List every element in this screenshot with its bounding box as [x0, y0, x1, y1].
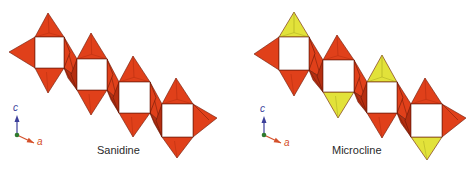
sanidine-top-tetrahedron [162, 78, 193, 104]
microcline-bottom-tetrahedron [323, 92, 354, 118]
sanidine-axis-a-label: a [37, 136, 43, 147]
sanidine-right-tetrahedron [193, 104, 217, 137]
axis-origin-icon [15, 133, 20, 138]
microcline-top-tetrahedron [411, 78, 442, 104]
sanidine-channel-square [162, 104, 193, 137]
microcline-right-tetrahedron [442, 104, 466, 137]
sanidine-bottom-tetrahedron [35, 68, 64, 93]
microcline-bottom-tetrahedron [279, 70, 309, 96]
feldspar-structure-figure: Sanidine Microcline c a c a [0, 0, 468, 172]
sanidine-bottom-tetrahedron [162, 137, 193, 158]
microcline-bottom-tetrahedron [367, 113, 397, 138]
axis-origin-icon [262, 133, 267, 138]
sanidine-top-tetrahedron [77, 33, 107, 59]
sanidine-channel-square [35, 37, 64, 68]
tetrahedra-drawing [0, 0, 468, 172]
microcline-channel-square [279, 37, 309, 70]
sanidine-bottom-tetrahedron [77, 90, 107, 115]
microcline-left-tetrahedron [254, 37, 279, 70]
microcline-channel-square [411, 104, 442, 137]
microcline-top-tetrahedron [323, 35, 354, 60]
sanidine-top-tetrahedron [35, 13, 64, 37]
arrow-up-icon [15, 115, 20, 122]
sanidine-label: Sanidine [97, 144, 140, 156]
arrow-right-icon [27, 138, 34, 143]
microcline-label: Microcline [332, 144, 382, 156]
sanidine-bottom-tetrahedron [119, 113, 150, 137]
sanidine-axis-c-label: c [13, 102, 18, 113]
sanidine-channel-square [119, 82, 150, 113]
arrow-right-icon [274, 138, 281, 143]
microcline-channel-square [323, 60, 354, 92]
sanidine-top-tetrahedron [119, 56, 150, 82]
sanidine-channel-square [77, 59, 107, 90]
sanidine-left-tetrahedron [9, 37, 35, 68]
microcline-axis-c-label: c [260, 103, 265, 114]
microcline-axis-a-label: a [284, 137, 290, 148]
arrow-up-icon [262, 116, 267, 123]
microcline-channel-square [367, 82, 397, 113]
